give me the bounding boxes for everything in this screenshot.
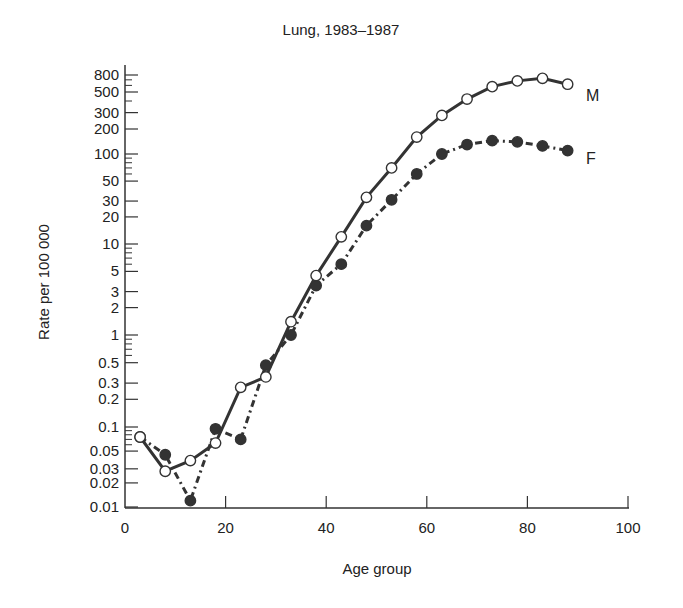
data-point-m xyxy=(487,81,497,91)
y-tick-label: 0.5 xyxy=(98,354,119,371)
data-point-m xyxy=(286,317,296,327)
data-point-m xyxy=(210,438,220,448)
data-point-f xyxy=(537,141,547,151)
data-point-f xyxy=(412,169,422,179)
y-tick-label: 0.3 xyxy=(98,374,119,391)
y-tick-label: 200 xyxy=(94,120,119,137)
data-point-m xyxy=(462,94,472,104)
data-point-f xyxy=(462,139,472,149)
x-axis-label: Age group xyxy=(342,560,411,577)
data-point-m xyxy=(336,232,346,242)
y-tick-label: 10 xyxy=(102,235,119,252)
y-tick-label: 100 xyxy=(94,145,119,162)
x-tick-label: 40 xyxy=(318,519,335,536)
data-point-m xyxy=(160,466,170,476)
data-point-m xyxy=(185,455,195,465)
y-tick-label: 20 xyxy=(102,208,119,225)
y-tick-label: 0.05 xyxy=(90,442,119,459)
data-point-m xyxy=(437,110,447,120)
x-tick-label: 0 xyxy=(121,519,129,536)
y-tick-label: 30 xyxy=(102,192,119,209)
data-point-f xyxy=(361,220,371,230)
data-point-m xyxy=(235,382,245,392)
series-line-f xyxy=(140,141,568,501)
data-point-f xyxy=(487,135,497,145)
data-point-f xyxy=(210,424,220,434)
data-point-f xyxy=(286,330,296,340)
series-layer xyxy=(135,73,573,506)
x-tick-label: 60 xyxy=(418,519,435,536)
data-point-m xyxy=(562,79,572,89)
x-tick-label: 100 xyxy=(615,519,640,536)
series-line-m xyxy=(140,78,568,471)
data-point-f xyxy=(336,259,346,269)
y-tick-label: 1 xyxy=(111,326,119,343)
data-point-m xyxy=(537,73,547,83)
axes xyxy=(125,65,629,508)
y-tick-label: 800 xyxy=(94,66,119,83)
y-tick-label: 0.02 xyxy=(90,474,119,491)
data-point-m xyxy=(512,76,522,86)
y-axis-label: Rate per 100 000 xyxy=(35,224,52,340)
data-point-f xyxy=(185,495,195,505)
y-tick-label: 3 xyxy=(111,283,119,300)
series-label-m: M xyxy=(586,87,599,104)
data-point-f xyxy=(437,149,447,159)
data-point-m xyxy=(386,163,396,173)
y-tick-label: 0.2 xyxy=(98,390,119,407)
data-point-f xyxy=(261,360,271,370)
data-point-m xyxy=(135,432,145,442)
data-point-m xyxy=(311,270,321,280)
data-point-m xyxy=(261,372,271,382)
y-tick-label: 50 xyxy=(102,172,119,189)
lung-rate-chart: Lung, 1983–1987 800500300200100503020105… xyxy=(0,0,683,608)
data-point-f xyxy=(512,137,522,147)
chart-title: Lung, 1983–1987 xyxy=(283,21,400,38)
data-point-f xyxy=(160,450,170,460)
data-point-m xyxy=(412,132,422,142)
y-tick-label: 0.01 xyxy=(90,498,119,515)
y-tick-label: 0.1 xyxy=(98,418,119,435)
y-ticks: 8005003002001005030201053210.50.30.20.10… xyxy=(90,66,138,515)
x-ticks: 020406080100 xyxy=(121,496,641,536)
series-label-f: F xyxy=(586,150,596,167)
y-tick-label: 5 xyxy=(111,262,119,279)
data-point-f xyxy=(386,195,396,205)
data-point-f xyxy=(311,280,321,290)
y-tick-label: 2 xyxy=(111,299,119,316)
y-tick-label: 500 xyxy=(94,83,119,100)
x-tick-label: 20 xyxy=(217,519,234,536)
y-tick-label: 300 xyxy=(94,104,119,121)
data-point-f xyxy=(562,145,572,155)
data-point-m xyxy=(361,192,371,202)
x-tick-label: 80 xyxy=(519,519,536,536)
data-point-f xyxy=(235,434,245,444)
